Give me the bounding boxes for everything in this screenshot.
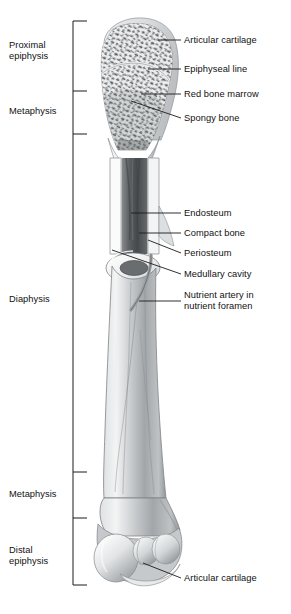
medullary-cavity-region xyxy=(121,158,148,254)
long-bone-diagram: Proximal epiphysisMetaphysisDiaphysisMet… xyxy=(0,0,291,614)
region-label-metaphysis-proximal: Metaphysis xyxy=(9,106,57,117)
callout-label-articular-cartilage-proximal: Articular cartilage xyxy=(184,35,257,46)
callout-label-endosteum: Endosteum xyxy=(184,208,231,219)
callout-label-spongy-bone: Spongy bone xyxy=(184,113,239,124)
lateral-condyle xyxy=(152,534,180,564)
region-label-diaphysis: Diaphysis xyxy=(9,294,50,305)
medial-condyle xyxy=(94,534,138,582)
callout-label-nutrient-artery: Nutrient artery in nutrient foramen xyxy=(184,290,254,313)
callout-label-periosteum: Periosteum xyxy=(184,248,232,259)
metaphysis-flare-distal xyxy=(100,498,180,536)
cut-section-cavity xyxy=(120,261,148,276)
callout-label-red-bone-marrow: Red bone marrow xyxy=(184,89,259,100)
region-bracket-layer xyxy=(73,21,87,585)
region-label-proximal-epiphysis: Proximal epiphysis xyxy=(9,40,48,63)
callout-label-compact-bone: Compact bone xyxy=(184,228,245,239)
callout-label-epiphyseal-line: Epiphyseal line xyxy=(184,64,247,75)
compact-bone-wall-left xyxy=(110,158,121,254)
periosteum-flap xyxy=(159,206,174,246)
callout-label-medullary-cavity: Medullary cavity xyxy=(184,269,251,280)
callout-label-articular-cartilage-distal: Articular cartilage xyxy=(184,573,257,584)
compact-bone-wall-right xyxy=(148,158,159,254)
region-label-metaphysis-distal: Metaphysis xyxy=(9,489,57,500)
region-label-distal-epiphysis: Distal epiphysis xyxy=(9,545,48,568)
